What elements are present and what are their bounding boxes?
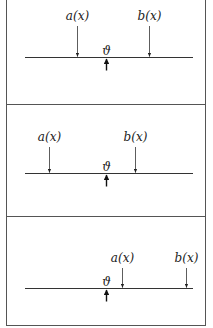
- theta-label: ϑ: [102, 275, 111, 289]
- diagram: a(x)b(x)ϑa(x)b(x)ϑa(x)b(x)ϑ: [0, 0, 213, 328]
- theta-label: ϑ: [102, 160, 111, 174]
- marker-b-label: b(x): [138, 9, 162, 23]
- panel-2: a(x)b(x)ϑ: [25, 130, 193, 187]
- marker-b-label: b(x): [124, 130, 148, 144]
- marker-a-label: a(x): [38, 130, 62, 144]
- marker-b-label: b(x): [175, 251, 199, 265]
- panel-3: a(x)b(x)ϑ: [25, 251, 199, 302]
- marker-a-label: a(x): [111, 251, 135, 265]
- theta-label: ϑ: [102, 44, 111, 58]
- marker-a-label: a(x): [66, 9, 90, 23]
- panel-1: a(x)b(x)ϑ: [25, 9, 193, 71]
